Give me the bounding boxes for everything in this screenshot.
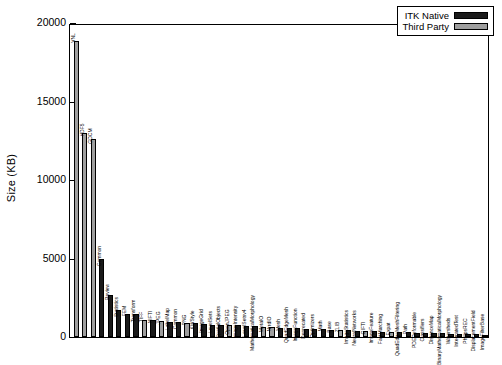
bar <box>82 133 87 337</box>
y-tick-mark <box>70 23 76 24</box>
bar-slot: ZLIB <box>336 25 345 337</box>
bar-slot: NeuralNetworks <box>353 25 362 337</box>
bar-label: OpenJPEG <box>225 310 230 335</box>
bar-label: PNG <box>182 315 187 326</box>
bar-label: KWStyle <box>190 311 195 330</box>
bar-label: VNL <box>71 33 76 43</box>
bar-slot: OpenJPEG <box>225 25 234 337</box>
bar-label: Statistics <box>114 297 119 317</box>
bar-label: Deprecated <box>301 313 306 339</box>
plot-area: 05000100001500020000 VNLHDF5GDCMCommonRe… <box>69 24 489 338</box>
legend: ITK NativeThird Party <box>397 6 494 36</box>
bar-label: MathematicalMorphology <box>250 295 255 351</box>
legend-item: ITK Native <box>403 10 488 21</box>
bar-slot: IntegratedTest <box>455 25 464 337</box>
bar-label: ImageFilterBase <box>480 314 485 350</box>
bar-slot: SpatialObjects <box>217 25 226 337</box>
y-tick-label: 5000 <box>43 252 66 264</box>
bar-label: ImageStatistics <box>344 311 349 345</box>
bar-label: GIFTI <box>361 322 366 335</box>
bar-slot: HDF5 <box>81 25 90 337</box>
bar-slot: Path <box>404 25 413 337</box>
bar-label: LabelMap <box>165 308 170 330</box>
bar-slot: PhilipsREC <box>464 25 473 337</box>
bar-label: ImageGrid <box>199 309 204 332</box>
bar-slot: ImageStatistics <box>345 25 354 337</box>
bar-slot: NIFTI <box>149 25 158 337</box>
bar-slot: ImageGrid <box>200 25 209 337</box>
y-axis-title: Size (KB) <box>2 0 20 355</box>
bar-label: Transform <box>131 300 136 323</box>
bar-label: Common <box>97 246 102 266</box>
bar-label: HDF5 <box>80 123 85 136</box>
bar-slot: LevelSetsv4 <box>242 25 251 337</box>
bar-label: Common <box>173 309 178 329</box>
legend-label: Third Party <box>403 21 449 32</box>
bar-slot: DistanceMap <box>430 25 439 337</box>
bar-label: FastMarching <box>378 314 383 344</box>
bar-label: Math <box>318 321 323 332</box>
bar-label: QuadEdgeMeshFiltering <box>395 302 400 356</box>
bar-slot: GDCM <box>89 25 98 337</box>
bar-label: IntegratedTest <box>454 315 459 347</box>
bar-slot: BinaryMathematicalMorphology <box>438 25 447 337</box>
bar-label: DisplacementField <box>471 311 476 352</box>
bar-slot: KWStyle <box>191 25 200 337</box>
y-tick-label: 0 <box>60 330 66 342</box>
bar-label: PhilipsREC <box>463 318 468 343</box>
y-tick-label: 10000 <box>37 173 66 185</box>
bar-label: Base <box>327 321 332 332</box>
bar-label: NrrdIO <box>267 317 272 332</box>
bar-label: QuadEdgeMesh <box>284 307 289 343</box>
legend-label: ITK Native <box>405 10 449 21</box>
bar-slot: TIFF <box>140 25 149 337</box>
bar-slot: MetaIO <box>259 25 268 337</box>
bar-label: TIFF <box>139 311 144 322</box>
bar-slot: VNL <box>72 25 81 337</box>
bar-slot: Mesh <box>276 25 285 337</box>
bar-slot: Watersheds <box>447 25 456 337</box>
bar-slot: FEM <box>123 25 132 337</box>
bar-slot: ImageFeature <box>370 25 379 337</box>
bar-slot: QuadEdgeMesh <box>285 25 294 337</box>
legend-swatch <box>454 12 488 19</box>
legend-item: Third Party <box>403 21 488 32</box>
bar-label: ImageFeature <box>369 313 374 344</box>
bar-slot: PNG <box>183 25 192 337</box>
bar-label: LevelSets <box>208 311 213 333</box>
y-tick-label: 15000 <box>37 95 66 107</box>
bar-label: NIFTI <box>148 311 153 324</box>
bar-label: LevelSetsv4 <box>242 309 247 336</box>
legend-swatch <box>454 23 488 30</box>
bar-label: BinaryMathematicalMorphology <box>437 295 442 365</box>
bar-slot: NrrdIO <box>268 25 277 337</box>
bar-label: Path <box>403 324 408 334</box>
bar-label: ImageFunction <box>293 309 298 342</box>
bar-slot: Math <box>319 25 328 337</box>
bar-label: Watersheds <box>446 317 451 344</box>
bar-slot: FastMarching <box>379 25 388 337</box>
bar-slot: Optimizers <box>310 25 319 337</box>
bar-label: Classifiers <box>420 318 425 341</box>
bar-label: ImageIntensity <box>233 306 238 339</box>
bar <box>91 139 96 337</box>
bar-label: FEM <box>122 305 127 316</box>
bar-label: Expat <box>386 323 391 336</box>
bar-slot: JPEG <box>157 25 166 337</box>
y-tick-mark <box>70 337 76 338</box>
bar-slot: MathematicalMorphology <box>251 25 260 337</box>
bar-slot: ImageIntensity <box>234 25 243 337</box>
bar-label: GDCM <box>88 128 93 143</box>
bar-slot: Statistics <box>115 25 124 337</box>
y-tick-label: 20000 <box>37 16 66 28</box>
bar-label: MetaIO <box>259 316 264 332</box>
bar-label: SpatialObjects <box>216 306 221 338</box>
bar-label: ZLIB <box>335 322 340 333</box>
bar-label: NeuralNetworks <box>352 310 357 346</box>
bar-slot: Base <box>327 25 336 337</box>
bar-slot: Classifiers <box>421 25 430 337</box>
bar-slot: LevelSets <box>208 25 217 337</box>
bar-label: Review <box>105 284 110 300</box>
bar-slot: DisplacementField <box>472 25 481 337</box>
